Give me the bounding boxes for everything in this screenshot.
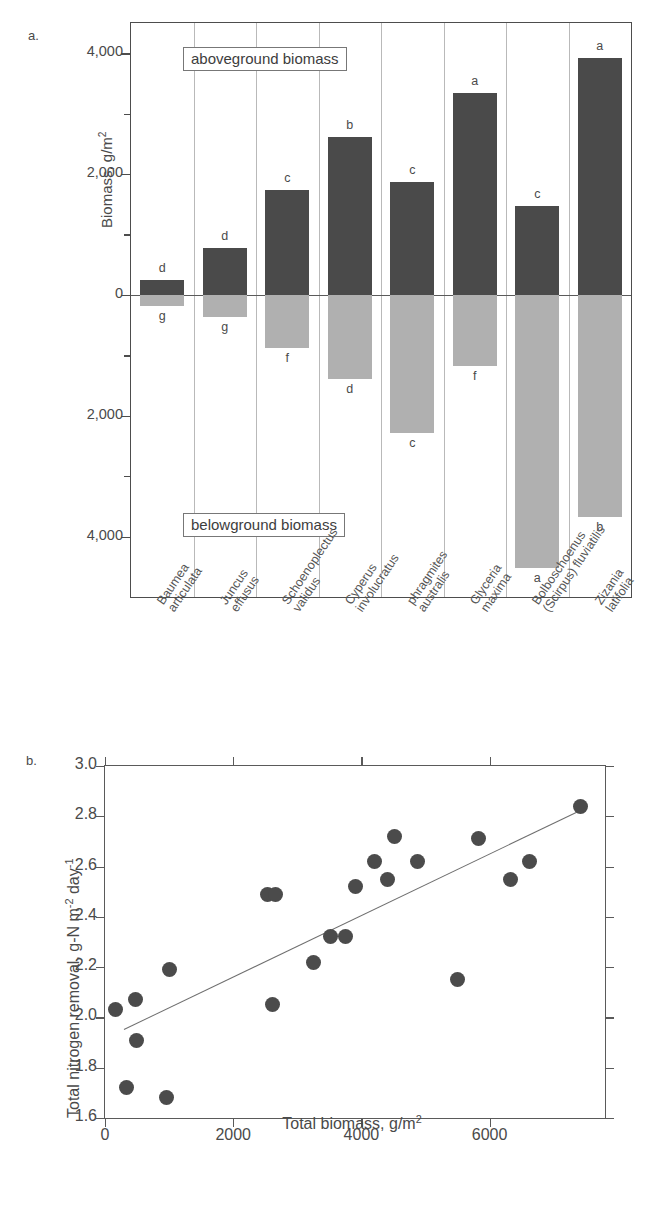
panel-b-letter: b. [26,753,37,768]
significance-letter-aboveground: b [336,118,364,132]
scatter-y-tick [96,967,105,968]
scatter-y-tick-label: 2.0 [75,1006,97,1024]
bar-belowground [390,295,434,433]
scatter-point [471,831,486,846]
significance-letter-belowground: f [461,369,489,383]
scatter-y-tick [96,867,105,868]
scatter-x-tick-label: 0 [101,1126,110,1144]
scatter-point [128,992,143,1007]
column-separator [444,23,445,597]
scatter-point [380,872,395,887]
scatter-point [450,972,465,987]
scatter-point [159,1090,174,1105]
scatter-y-tick-label: 1.6 [75,1107,97,1125]
significance-letter-belowground: g [211,320,239,334]
scatter-y-tick-label: 2.2 [75,956,97,974]
scatter-point [503,872,518,887]
scatter-plot-area: Total nitrogen removal, g-N m-2 day-1 1.… [104,765,606,1119]
scatter-y-tick-right [605,967,614,968]
significance-letter-aboveground: d [148,261,176,275]
scatter-y-tick [96,917,105,918]
bar-aboveground [265,190,309,295]
scatter-y-tick [96,766,105,767]
scatter-point [410,854,425,869]
scatter-x-tick-top [233,757,234,766]
scatter-x-tick-label: 2000 [215,1126,251,1144]
scatter-y-tick-label: 2.4 [75,906,97,924]
scatter-y-tick [96,816,105,817]
significance-letter-aboveground: c [273,171,301,185]
scatter-y-tick-label: 2.6 [75,856,97,874]
scatter-x-axis-title: Total biomass, g/m2 [282,1113,421,1133]
scatter-y-tick-label: 2.8 [75,805,97,823]
bar-belowground [203,295,247,317]
significance-letter-belowground: c [398,436,426,450]
scatter-y-tick [96,1017,105,1018]
scatter-point [348,879,363,894]
scatter-point [162,962,177,977]
scatter-point [268,887,283,902]
y-tick-minor [124,114,131,115]
significance-letter-aboveground: c [398,163,426,177]
bar-aboveground [328,137,372,295]
scatter-y-tick-right [605,1118,614,1119]
column-separator [569,23,570,597]
scatter-x-tick-top [105,757,106,766]
scatter-y-tick-label: 1.8 [75,1057,97,1075]
y-tick-label: 2,000 [87,164,123,180]
y-tick-label: 0 [115,285,123,301]
scatter-point [265,997,280,1012]
scatter-point [338,929,353,944]
scatter-point [522,854,537,869]
scatter-y-tick-label: 3.0 [75,755,97,773]
scatter-point [573,799,588,814]
scatter-x-tick-top [490,757,491,766]
scatter-point [387,829,402,844]
column-separator [381,23,382,597]
y-tick-label: 4,000 [87,527,123,543]
scatter-y-tick-right [605,1017,614,1018]
scatter-x-tick-top [361,757,362,766]
scatter-y-tick-right [605,766,614,767]
scatter-y-tick [96,1068,105,1069]
scatter-point [108,1002,123,1017]
aboveground-biomass-label: aboveground biomass [183,47,347,71]
bar-aboveground [515,206,559,295]
scatter-point [306,955,321,970]
scatter-point [323,929,338,944]
bar-aboveground [203,248,247,295]
scatter-y-tick [96,1118,105,1119]
bar-belowground [515,295,559,568]
bar-belowground [453,295,497,366]
y-tick-label: 2,000 [87,406,123,422]
scatter-point [119,1080,134,1095]
scatter-point [367,854,382,869]
panel-a-letter: a. [28,28,39,43]
column-separator [319,23,320,597]
bar-belowground [140,295,184,306]
y-tick-minor [124,234,131,235]
scatter-y-axis-title: Total nitrogen removal, g-N m-2 day-1 [63,859,83,1118]
scatter-y-tick-right [605,867,614,868]
y-tick-label: 4,000 [87,43,123,59]
significance-letter-belowground: f [273,351,301,365]
bar-belowground [328,295,372,380]
column-separator [506,23,507,597]
panel-a-bar-chart: a. Biomass, g/m2 4,0002,00002,0004,000 d… [0,0,660,715]
scatter-y-tick-right [605,816,614,817]
scatter-x-tick-label: 6000 [472,1126,508,1144]
significance-letter-aboveground: d [211,229,239,243]
significance-letter-belowground: g [148,309,176,323]
scatter-y-tick-right [605,1068,614,1069]
bar-belowground [578,295,622,517]
belowground-biomass-label: belowground biomass [183,513,345,537]
scatter-point [129,1033,144,1048]
scatter-y-tick-right [605,917,614,918]
panel-b-scatter-chart: b. Total nitrogen removal, g-N m-2 day-1… [0,715,660,1222]
bar-aboveground [390,182,434,295]
bar-aboveground [140,280,184,295]
column-separator [256,23,257,597]
bar-aboveground [453,93,497,295]
significance-letter-aboveground: c [523,187,551,201]
bar-belowground [265,295,309,348]
